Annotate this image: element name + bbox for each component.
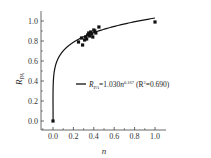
y-tick-label: 0.2 [28,97,38,106]
data-point [91,35,94,38]
legend-label: RPA=1.030n0.167 (R2=0.690) [88,80,170,90]
data-point [90,32,93,35]
data-point [77,40,80,43]
y-tick-label: 0.0 [28,117,38,126]
fit-curve [53,18,155,121]
data-point [81,43,84,46]
x-tick-label: 0.8 [130,132,140,141]
x-axis-label: n [102,146,107,156]
x-tick-label: 0.2 [68,132,78,141]
x-tick-label: 0.4 [89,132,99,141]
data-point [153,20,156,23]
x-tick-label: 1.0 [150,132,160,141]
y-axis-label: RPA [14,73,25,86]
legend: RPA=1.030n0.167 (R2=0.690) [76,80,170,90]
data-point [85,37,88,40]
y-axis-ticks: 0.00.20.40.60.81.0 [28,17,44,126]
data-point [80,36,83,39]
power-fit-chart: 0.00.20.40.60.81.0 0.00.20.40.60.81.0 RP… [0,0,211,158]
data-points [51,20,156,122]
y-tick-label: 0.6 [28,57,38,66]
y-tick-label: 1.0 [28,17,38,26]
x-tick-label: 0.6 [109,132,119,141]
data-point [97,25,100,28]
x-axis-ticks: 0.00.20.40.60.81.0 [43,127,160,141]
x-tick-label: 0.0 [48,132,58,141]
data-point [94,31,97,34]
data-point [51,119,54,122]
y-tick-label: 0.4 [28,77,38,86]
y-tick-label: 0.8 [28,37,38,46]
